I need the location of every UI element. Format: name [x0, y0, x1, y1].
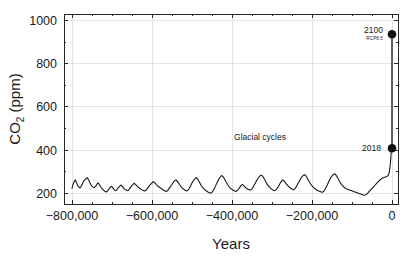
x-tick-label: 0 [389, 209, 396, 223]
x-tick-label: −400,000 [206, 209, 259, 223]
y-tick-label: 400 [36, 144, 57, 158]
y-tick-label: 600 [36, 100, 57, 114]
x-axis-label: Years [212, 235, 250, 252]
x-tick-label: −800,000 [46, 209, 99, 223]
x-tick-label: −600,000 [126, 209, 179, 223]
y-tick-label: 800 [36, 57, 57, 71]
y-tick-label: 1000 [29, 14, 57, 28]
annotation-glacial-cycles: Glacial cycles [234, 132, 286, 142]
co2-history-chart: −800,000−600,000−400,000−200,0000 200400… [0, 0, 419, 258]
marker-dot-2018 [388, 144, 397, 153]
y-axis-label-unit: (ppm) [6, 73, 23, 116]
x-tick-label: −200,000 [286, 209, 339, 223]
marker-dot-2100 [388, 30, 397, 39]
annotation-scenario-rcp85: RCP8.5 [366, 36, 383, 41]
annotation-year-2018: 2018 [362, 143, 381, 153]
annotation-year-2100: 2100 [364, 25, 383, 35]
y-tick-label: 200 [36, 187, 57, 201]
y-axis-label-main: CO [6, 122, 23, 145]
